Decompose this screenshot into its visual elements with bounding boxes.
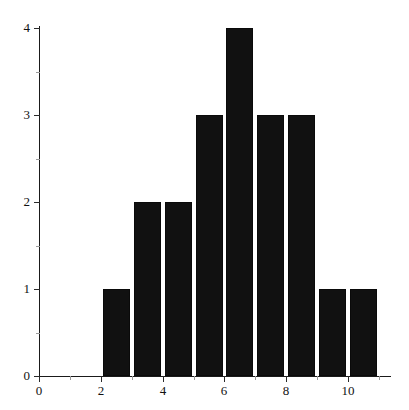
x-tick-major-2 [101,376,102,382]
bar [257,115,284,376]
x-tick-minor [317,376,318,380]
x-tick-minor [132,376,133,380]
y-tick-label-wrap: 0 [0,369,30,382]
bar [165,202,192,376]
x-tick-label-6: 6 [204,384,244,398]
y-tick-label-wrap: 4 [0,21,30,34]
x-tick-major-6 [224,376,225,382]
bar [288,115,315,376]
y-tick-minor [36,72,40,73]
y-tick-minor [36,246,40,247]
y-tick-minor [36,333,40,334]
x-tick-major-10 [348,376,349,382]
x-axis-line [39,376,391,377]
y-tick-label-0: 0 [8,369,30,382]
x-tick-label-2: 2 [81,384,121,398]
x-tick-minor [194,376,195,380]
x-tick-label-4: 4 [143,384,183,398]
y-tick-major-1 [34,289,40,290]
bar [350,289,377,376]
x-tick-label-10: 10 [328,384,368,398]
x-tick-major-0 [39,376,40,382]
y-tick-minor [36,159,40,160]
x-tick-minor [379,376,380,380]
histogram-chart: 01234 0246810 [0,0,409,410]
bar [226,28,253,376]
x-tick-minor [255,376,256,380]
y-tick-major-2 [34,202,40,203]
bar [196,115,223,376]
x-tick-major-4 [163,376,164,382]
bar [134,202,161,376]
y-tick-label-4: 4 [8,21,30,34]
y-tick-label-1: 1 [8,282,30,295]
y-tick-label-wrap: 3 [0,108,30,121]
bar [103,289,130,376]
plot-area: 01234 0246810 [0,0,409,410]
x-tick-major-8 [286,376,287,382]
y-tick-label-wrap: 2 [0,195,30,208]
bar [319,289,346,376]
y-tick-label-2: 2 [8,195,30,208]
x-tick-label-0: 0 [19,384,59,398]
x-tick-label-8: 8 [266,384,306,398]
y-tick-label-3: 3 [8,108,30,121]
y-tick-label-wrap: 1 [0,282,30,295]
y-tick-major-3 [34,115,40,116]
x-tick-minor [70,376,71,380]
y-tick-major-4 [34,28,40,29]
